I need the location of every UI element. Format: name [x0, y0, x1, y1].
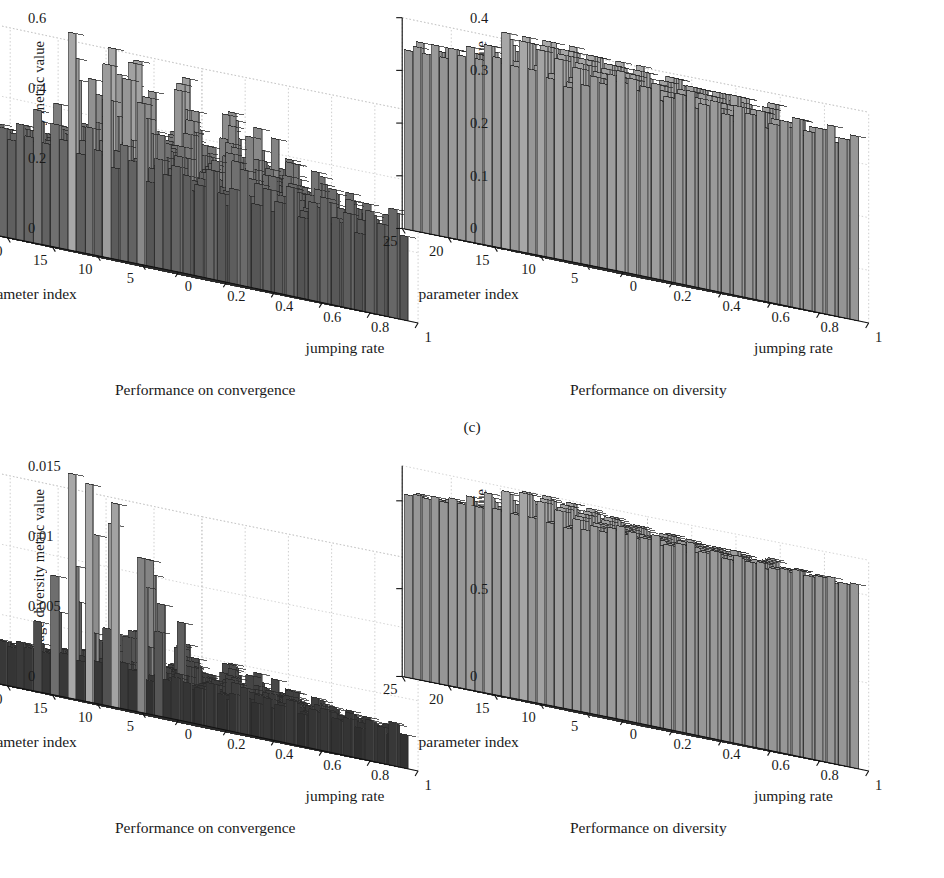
y-tick-label: 0.4	[275, 298, 293, 315]
y-axis-label: jumping rate	[306, 339, 385, 357]
y-tick-label: 0	[185, 278, 192, 295]
y-tick-label: 0.4	[722, 746, 740, 763]
z-tick-label: 0.2	[28, 150, 46, 167]
chart-d-right: average diversity metric value 00.515101…	[470, 448, 930, 788]
x-tick-label: 5	[127, 717, 134, 734]
y-tick-label: 1	[875, 329, 882, 346]
y-tick-label: 0.8	[371, 318, 389, 335]
chart-c-right: average diversity metric value 00.10.20.…	[470, 0, 930, 340]
y-tick-label: 0.4	[275, 746, 293, 763]
z-tick-label: 0.2	[470, 115, 488, 132]
x-tick-label: 25	[383, 681, 398, 698]
x-tick-label: 25	[383, 233, 398, 250]
figure-root: average diversity metric value 00.20.40.…	[0, 0, 944, 878]
x-tick-label: 20	[0, 690, 3, 707]
caption-d-left: Performance on convergence	[115, 819, 295, 837]
plot-area	[492, 448, 930, 788]
plot-svg	[492, 0, 930, 340]
x-tick-label: 10	[521, 260, 536, 277]
z-tick-label: 0.4	[470, 9, 488, 26]
z-tick-label: 0.6	[28, 9, 46, 26]
plot-svg	[492, 448, 930, 788]
z-tick-label: 0	[470, 220, 477, 237]
y-tick-label: 1	[424, 329, 431, 346]
y-axis-label: jumping rate	[306, 787, 385, 805]
y-tick-label: 0.8	[371, 766, 389, 783]
z-tick-label: 0	[28, 220, 35, 237]
panel-d-right: average diversity metric value 00.515101…	[470, 448, 930, 808]
y-tick-label: 0.4	[722, 298, 740, 315]
z-tick-label: 0	[28, 668, 35, 685]
x-tick-label: 20	[0, 242, 3, 259]
x-tick-label: 15	[475, 251, 490, 268]
caption-c-right: Performance on diversity	[570, 381, 727, 399]
x-axis-label: parameter index	[419, 285, 519, 303]
y-tick-label: 0	[630, 726, 637, 743]
z-tick-label: 0.005	[28, 598, 61, 615]
x-tick-label: 15	[33, 251, 48, 268]
y-axis-label: jumping rate	[754, 339, 833, 357]
z-tick-label: 0.3	[470, 62, 488, 79]
x-tick-label: 10	[78, 260, 93, 277]
y-axis-label: jumping rate	[754, 787, 833, 805]
y-tick-label: 0.8	[821, 766, 839, 783]
y-tick-label: 0.6	[323, 756, 341, 773]
plot-area	[492, 0, 930, 340]
y-tick-label: 0.2	[227, 736, 245, 753]
z-tick-label: 0.1	[470, 167, 488, 184]
x-tick-label: 10	[78, 708, 93, 725]
y-tick-label: 0.2	[673, 288, 691, 305]
z-tick-label: 0.5	[470, 580, 488, 597]
y-tick-label: 1	[424, 777, 431, 794]
x-tick-label: 10	[521, 708, 536, 725]
subfigure-d: average diversity metric value 00.0050.0…	[0, 448, 944, 878]
z-tick-label: 0.015	[28, 457, 61, 474]
x-axis-label: parameter index	[419, 733, 519, 751]
y-tick-label: 0.2	[227, 288, 245, 305]
y-tick-label: 0.6	[323, 308, 341, 325]
y-tick-label: 1	[875, 777, 882, 794]
y-tick-label: 0.2	[673, 736, 691, 753]
x-tick-label: 5	[571, 717, 578, 734]
z-tick-label: 0	[470, 668, 477, 685]
z-tick-label: 0.4	[28, 79, 46, 96]
y-tick-label: 0.6	[772, 756, 790, 773]
y-tick-label: 0.8	[821, 318, 839, 335]
panel-c-right: average diversity metric value 00.10.20.…	[470, 0, 930, 360]
caption-c-left: Performance on convergence	[115, 381, 295, 399]
x-tick-label: 20	[429, 690, 444, 707]
z-tick-label: 1	[470, 492, 477, 509]
z-tick-label: 0.01	[28, 527, 53, 544]
x-axis-label: parameter index	[0, 733, 77, 751]
subfigure-c: average diversity metric value 00.20.40.…	[0, 0, 944, 448]
caption-d-right: Performance on diversity	[570, 819, 727, 837]
x-tick-label: 5	[571, 269, 578, 286]
x-tick-label: 15	[33, 699, 48, 716]
y-tick-label: 0	[630, 278, 637, 295]
subfigure-label-c: (c)	[0, 418, 944, 436]
x-tick-label: 15	[475, 699, 490, 716]
y-tick-label: 0	[185, 726, 192, 743]
y-tick-label: 0.6	[772, 308, 790, 325]
x-tick-label: 5	[127, 269, 134, 286]
x-tick-label: 20	[429, 242, 444, 259]
x-axis-label: parameter index	[0, 285, 77, 303]
